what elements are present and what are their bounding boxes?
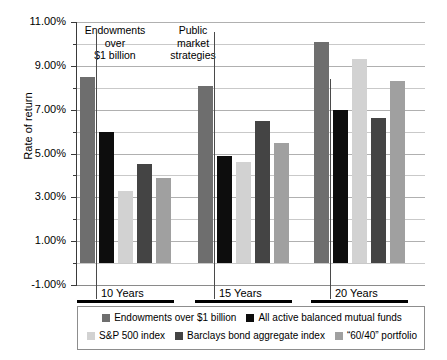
y-axis-tick-label: -1.00%: [12, 278, 66, 290]
y-axis-tick-label: 9.00%: [12, 59, 66, 71]
y-axis-tick: [71, 285, 77, 286]
y-axis-tick: [71, 154, 77, 155]
legend-label: Endowments over $1 billion: [114, 312, 236, 323]
x-axis-group-underline: [195, 300, 292, 303]
bar: [156, 178, 171, 263]
chart-legend: Endowments over $1 billionAll active bal…: [77, 306, 425, 350]
bar: [274, 143, 289, 264]
annotation-line: Endowments: [78, 24, 152, 37]
bar: [118, 191, 133, 263]
bar: [352, 59, 367, 263]
y-axis-tick-label: 1.00%: [12, 234, 66, 246]
gridline-minor: [77, 263, 425, 264]
legend-swatch-icon: [246, 314, 254, 322]
legend-label: S&P 500 index: [99, 330, 165, 341]
x-axis-group-label: 20 Years: [335, 287, 405, 299]
y-axis-tick: [71, 241, 77, 242]
y-axis-tick-label: 5.00%: [12, 147, 66, 159]
group-separator-line: [214, 32, 215, 299]
y-axis-tick-minor: [73, 263, 77, 264]
legend-swatch-icon: [102, 314, 110, 322]
bar: [255, 121, 270, 263]
legend-swatch-icon: [87, 332, 95, 340]
legend-item: “60/40” portfolio: [335, 330, 417, 341]
legend-item: S&P 500 index: [87, 330, 165, 341]
y-axis-tick-minor: [73, 44, 77, 45]
bar: [217, 156, 232, 263]
y-axis-tick: [71, 22, 77, 23]
bar: [198, 86, 213, 264]
bar: [137, 164, 152, 263]
x-axis-group-underline: [77, 300, 174, 303]
legend-swatch-icon: [175, 332, 183, 340]
y-axis-title: Rate of return: [22, 66, 34, 186]
legend-row-1: Endowments over $1 billionAll active bal…: [78, 312, 426, 323]
legend-row-2: S&P 500 indexBarclays bond aggregate ind…: [78, 330, 426, 341]
legend-label: All active balanced mutual funds: [258, 312, 401, 323]
annotation-line: Public: [156, 24, 230, 37]
annotation-line: $1 billion: [78, 49, 152, 62]
annotation-public-markets: Publicmarketstrategies: [156, 24, 230, 62]
gridline-major: [77, 285, 425, 286]
legend-label: “60/40” portfolio: [347, 330, 417, 341]
x-axis-group-underline: [311, 300, 408, 303]
y-axis-tick-label: 3.00%: [12, 190, 66, 202]
annotation-endowments: Endowmentsover$1 billion: [78, 24, 152, 62]
chart-container: Rate of return 11.00%9.00%7.00%5.00%3.00…: [0, 0, 447, 360]
y-axis-tick-minor: [73, 132, 77, 133]
bar: [314, 42, 329, 263]
y-axis-tick-minor: [73, 175, 77, 176]
x-axis-group-label: 10 Years: [101, 287, 171, 299]
group-separator-line: [330, 79, 331, 299]
bar: [80, 77, 95, 263]
y-axis-tick-label: 7.00%: [12, 103, 66, 115]
y-axis-tick: [71, 197, 77, 198]
bar: [390, 81, 405, 263]
gridline-major: [77, 66, 425, 67]
annotation-line: over: [78, 37, 152, 50]
legend-swatch-icon: [335, 332, 343, 340]
legend-item: Endowments over $1 billion: [102, 312, 236, 323]
gridline-minor: [77, 88, 425, 89]
y-axis-tick: [71, 110, 77, 111]
bar: [371, 118, 386, 263]
group-separator-line: [96, 32, 97, 299]
y-axis-tick-minor: [73, 88, 77, 89]
y-axis-tick: [71, 66, 77, 67]
gridline-major: [77, 22, 425, 23]
annotation-line: market: [156, 37, 230, 50]
bar: [236, 162, 251, 263]
gridline-major: [77, 110, 425, 111]
bar: [99, 132, 114, 264]
legend-item: All active balanced mutual funds: [246, 312, 401, 323]
legend-item: Barclays bond aggregate index: [175, 330, 325, 341]
x-axis-group-label: 15 Years: [219, 287, 289, 299]
bar: [333, 110, 348, 263]
annotation-line: strategies: [156, 49, 230, 62]
legend-label: Barclays bond aggregate index: [187, 330, 325, 341]
y-axis-tick-label: 11.00%: [12, 15, 66, 27]
y-axis-tick-minor: [73, 219, 77, 220]
